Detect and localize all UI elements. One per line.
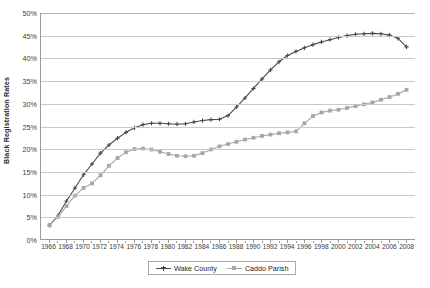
data-point <box>320 111 324 115</box>
x-tick-label: 2006 <box>382 243 397 250</box>
data-point <box>396 92 400 96</box>
data-point <box>328 38 332 42</box>
y-tick-label: 25% <box>3 122 37 131</box>
data-point <box>328 109 332 113</box>
x-tick-label: 1982 <box>178 243 193 250</box>
x-tick-mark <box>108 241 109 244</box>
data-point <box>319 40 323 44</box>
data-point <box>167 152 171 156</box>
x-tick-label: 1972 <box>92 243 107 250</box>
data-point <box>294 49 298 53</box>
data-point <box>149 121 153 125</box>
legend-marker-icon <box>227 265 242 272</box>
x-tick-mark <box>151 239 152 243</box>
x-tick-label: 1990 <box>246 243 261 250</box>
data-point <box>379 98 383 102</box>
x-tick-label: 2002 <box>348 243 363 250</box>
x-tick-mark <box>228 241 229 244</box>
legend-label: Wake County <box>174 264 217 273</box>
x-tick-label: 1994 <box>280 243 295 250</box>
data-point <box>388 95 392 99</box>
x-tick-mark <box>236 239 237 243</box>
x-tick-mark <box>159 241 160 244</box>
data-point <box>82 186 86 190</box>
x-tick-mark <box>168 239 169 243</box>
data-point <box>252 136 256 140</box>
x-tick-label: 1984 <box>195 243 210 250</box>
x-tick-label: 1976 <box>126 243 141 250</box>
x-tick-mark <box>364 241 365 244</box>
x-tick-label: 1998 <box>314 243 329 250</box>
x-tick-mark <box>185 239 186 243</box>
y-tick-label: 5% <box>3 213 37 222</box>
data-point <box>243 138 247 142</box>
x-tick-mark <box>74 241 75 244</box>
x-tick-mark <box>398 241 399 244</box>
data-point <box>235 140 239 144</box>
x-tick-mark <box>83 239 84 243</box>
x-tick-mark <box>389 239 390 243</box>
x-tick-mark <box>381 241 382 244</box>
gridline <box>41 149 415 150</box>
x-tick-mark <box>142 241 143 244</box>
legend-item-wake-county[interactable]: Wake County <box>156 264 217 273</box>
y-tick-label: 45% <box>3 31 37 40</box>
gridline <box>41 172 415 173</box>
data-point <box>260 134 264 138</box>
data-point <box>218 144 222 148</box>
data-point <box>201 151 205 155</box>
data-point <box>158 150 162 154</box>
x-tick-mark <box>210 241 211 244</box>
x-tick-mark <box>330 241 331 244</box>
y-tick-label: 0% <box>3 236 37 245</box>
legend-label: Caddo Parish <box>245 264 289 273</box>
x-tick-mark <box>406 239 407 243</box>
x-tick-mark <box>287 239 288 243</box>
x-tick-label: 1970 <box>75 243 90 250</box>
data-point <box>209 118 213 122</box>
gridline <box>41 195 415 196</box>
data-point <box>269 133 273 137</box>
figure-caption <box>44 281 374 288</box>
x-tick-label: 1966 <box>41 243 56 250</box>
x-tick-mark <box>134 239 135 243</box>
y-tick-label: 35% <box>3 77 37 86</box>
x-tick-label: 1968 <box>58 243 73 250</box>
x-tick-label: 1974 <box>109 243 124 250</box>
x-tick-mark <box>66 239 67 243</box>
x-tick-mark <box>355 239 356 243</box>
data-point <box>311 114 315 118</box>
data-point <box>192 120 196 124</box>
x-tick-mark <box>347 241 348 244</box>
data-point <box>116 156 120 160</box>
y-tick-label: 30% <box>3 99 37 108</box>
x-tick-mark <box>262 241 263 244</box>
gridline <box>41 58 415 59</box>
data-point <box>277 131 281 135</box>
y-tick-label: 40% <box>3 54 37 63</box>
data-point <box>294 130 298 134</box>
series-line <box>49 90 406 225</box>
data-point <box>175 154 179 158</box>
gridline <box>41 217 415 218</box>
data-point <box>124 150 128 154</box>
gridline <box>41 81 415 82</box>
data-point <box>107 164 111 168</box>
x-tick-mark <box>100 239 101 243</box>
chart-figure: Black Registration Rates 0%5%10%15%20%25… <box>0 0 430 288</box>
legend-item-caddo-parish[interactable]: Caddo Parish <box>227 264 289 273</box>
y-tick-label: 15% <box>3 167 37 176</box>
data-point <box>90 182 94 186</box>
x-tick-mark <box>338 239 339 243</box>
x-tick-label: 1988 <box>229 243 244 250</box>
x-tick-label: 2000 <box>331 243 346 250</box>
y-axis-tick-labels: 0%5%10%15%20%25%30%35%40%45%50% <box>0 13 37 240</box>
legend-marker-icon <box>156 265 171 272</box>
chart-legend: Wake County Caddo Parish <box>148 261 296 275</box>
data-point <box>184 154 188 158</box>
x-tick-mark <box>91 241 92 244</box>
series-caddo-parish <box>48 88 409 227</box>
data-point <box>166 122 170 126</box>
x-tick-mark <box>253 239 254 243</box>
x-tick-mark <box>321 239 322 243</box>
